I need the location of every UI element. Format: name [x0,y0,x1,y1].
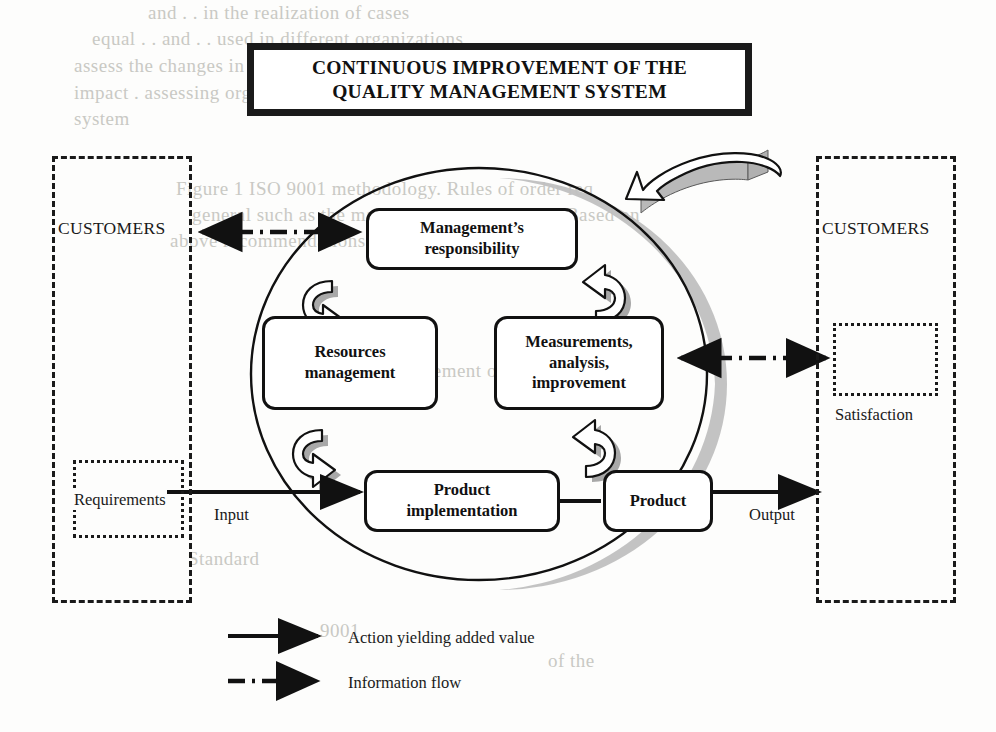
title-line-1: CONTINUOUS IMPROVEMENT OF THE [312,56,687,80]
bleed-text-0: and . . in the realization of cases [148,2,410,24]
process-line-1: Resources [305,342,396,363]
process-box-text: Measurements, analysis, improvement [525,332,632,394]
process-box-text: Product implementation [407,480,518,521]
process-box-measurements-analysis-improvement[interactable]: Measurements, analysis, improvement [494,316,664,410]
requirements-label: Requirements [73,490,167,510]
process-line-2: management [305,363,396,384]
process-line-3: improvement [525,373,632,394]
diagram-page: and . . in the realization of casesequal… [0,0,996,732]
process-line-1: Management’s [420,218,524,239]
process-line-2: implementation [407,501,518,522]
process-box-text: Management’s responsibility [420,218,524,259]
customers-left-label: CUSTOMERS [58,218,165,239]
customers-right-label: CUSTOMERS [822,218,929,239]
bleed-text-11: of the [548,650,595,672]
bleed-text-4: system [74,108,130,130]
continuous-improvement-arrow-icon [626,150,781,213]
bleed-text-9: Standard [188,548,260,570]
input-label: Input [214,505,249,525]
output-label: Output [749,505,795,525]
process-box-management-responsibility[interactable]: Management’s responsibility [366,208,578,270]
page-title: CONTINUOUS IMPROVEMENT OF THE QUALITY MA… [312,56,687,104]
satisfaction-label: Satisfaction [835,405,913,425]
title-line-2: QUALITY MANAGEMENT SYSTEM [312,80,687,104]
legend-item-information-label: Information flow [348,673,461,693]
process-line-2: responsibility [420,239,524,260]
satisfaction-box [833,323,938,396]
diagram-title-box: CONTINUOUS IMPROVEMENT OF THE QUALITY MA… [247,43,752,116]
process-line-1: Product [630,491,687,512]
cycle-arrow-resources-to-product-icon [293,430,341,492]
process-line-1: Measurements, [525,332,632,353]
process-box-text: Resources management [305,342,396,383]
process-line-2: analysis, [525,353,632,374]
process-line-1: Product [407,480,518,501]
legend-item-action-label: Action yielding added value [348,628,535,648]
bleed-text-5: Figure 1 ISO 9001 methodology. Rules of … [176,178,593,200]
process-box-product-implementation[interactable]: Product implementation [364,470,560,532]
process-box-resources-management[interactable]: Resources management [262,316,438,410]
diagram-title-inner: CONTINUOUS IMPROVEMENT OF THE QUALITY MA… [252,48,747,111]
process-box-text: Product [630,491,687,512]
process-box-product[interactable]: Product [603,470,713,532]
